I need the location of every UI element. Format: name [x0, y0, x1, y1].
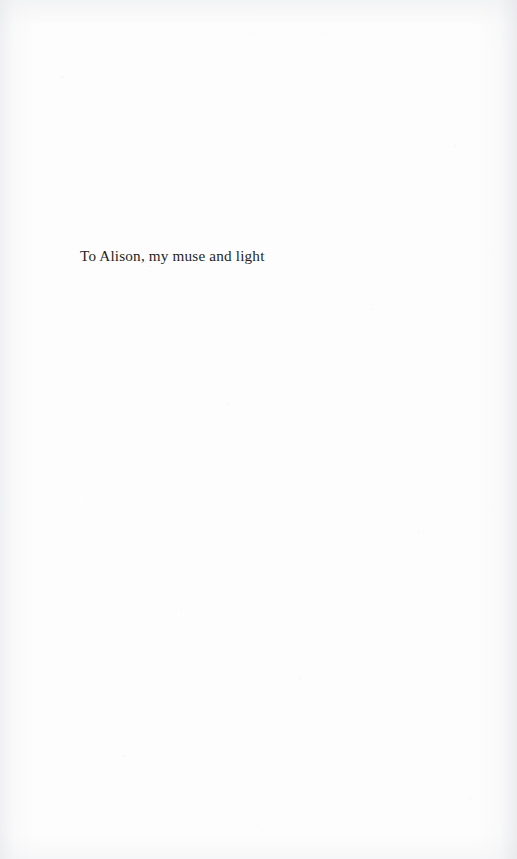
dedication-text: To Alison, my muse and light [80, 246, 265, 265]
book-dedication-page: To Alison, my muse and light [0, 0, 517, 859]
paper-background [0, 0, 517, 859]
